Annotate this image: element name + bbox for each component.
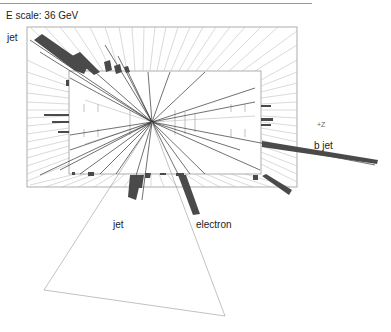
- z-axis-label: +Z: [317, 121, 325, 128]
- jet-label-bottom: jet: [113, 219, 124, 230]
- b-jet-label: b jet: [314, 140, 333, 151]
- outer-calorimeter-frame: [27, 27, 297, 187]
- electron-label: electron: [196, 219, 232, 230]
- event-display: [0, 0, 391, 332]
- energy-deposits: [34, 34, 378, 215]
- calorimeter-towers: [27, 27, 297, 187]
- jet-label-top-left: jet: [7, 32, 18, 43]
